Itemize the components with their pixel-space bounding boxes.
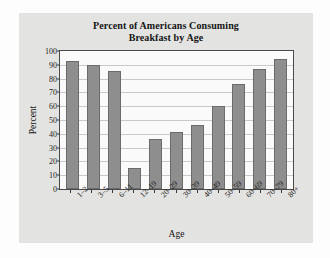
y-axis-tick-mark	[57, 106, 60, 107]
x-axis-tick-mark	[281, 190, 282, 193]
x-axis-tick-mark	[239, 190, 240, 193]
x-axis-tick-label: 80+	[286, 193, 292, 199]
chart-title-line-2: Breakfast by Age	[19, 32, 313, 44]
x-axis-tick-mark	[91, 190, 92, 193]
chart-title: Percent of Americans Consuming Breakfast…	[19, 20, 313, 44]
x-axis-ticks: 1–23–56–1112–1920–2930–3940–4950–5960–69…	[59, 190, 294, 230]
bar	[232, 84, 245, 189]
x-axis-tick-label: 40–49	[202, 193, 208, 199]
y-axis-tick-mark	[57, 147, 60, 148]
x-axis-tick-mark	[260, 190, 261, 193]
x-axis-tick-label: 30–39	[181, 193, 187, 199]
y-axis-label: Percent	[28, 50, 42, 190]
x-axis-tick-label: 20–29	[159, 193, 165, 199]
y-axis-tick-mark	[57, 64, 60, 65]
x-axis-tick-label: 3–5	[96, 193, 102, 199]
y-axis-tick-label: 70	[49, 88, 57, 97]
bar	[253, 69, 266, 189]
x-axis-tick-mark	[154, 190, 155, 193]
x-axis-tick-mark	[218, 190, 219, 193]
bar	[87, 65, 100, 189]
bar	[212, 106, 225, 189]
x-axis-tick-mark	[176, 190, 177, 193]
figure: Percent of Americans Consuming Breakfast…	[0, 0, 330, 258]
y-axis-tick-label: 50	[49, 116, 57, 125]
y-axis-tick-mark	[57, 51, 60, 52]
y-axis-tick-mark	[57, 92, 60, 93]
y-axis-tick-mark	[57, 120, 60, 121]
y-axis-tick-mark	[57, 175, 60, 176]
y-axis-tick-label: 40	[49, 129, 57, 138]
plot-area: 0102030405060708090100	[59, 50, 294, 190]
bar	[108, 71, 121, 189]
x-axis-tick-mark	[133, 190, 134, 193]
y-axis-tick-label: 60	[49, 102, 57, 111]
y-axis-tick-mark	[57, 161, 60, 162]
bar	[274, 59, 287, 189]
y-axis-tick-mark	[57, 78, 60, 79]
bar-series	[60, 51, 293, 189]
x-axis-tick-label: 50–59	[223, 193, 229, 199]
x-axis-tick-label: 70–79	[265, 193, 271, 199]
x-axis-tick-label: 6–11	[117, 193, 123, 199]
y-axis-tick-label: 100	[45, 47, 57, 56]
y-axis-tick-label: 80	[49, 74, 57, 83]
x-axis-tick-mark	[70, 190, 71, 193]
chart-panel: Percent of Americans Consuming Breakfast…	[19, 13, 313, 243]
x-axis-tick-label: 1–2	[75, 193, 81, 199]
y-axis-tick-label: 90	[49, 60, 57, 69]
x-axis-tick-label: 12–19	[138, 193, 144, 199]
x-axis-tick-mark	[197, 190, 198, 193]
x-axis-tick-mark	[112, 190, 113, 193]
y-axis-tick-label: 30	[49, 143, 57, 152]
y-axis-tick-label: 10	[49, 171, 57, 180]
bar	[66, 61, 79, 189]
y-axis-tick-mark	[57, 133, 60, 134]
chart-title-line-1: Percent of Americans Consuming	[19, 20, 313, 32]
x-axis-tick-label: 60–69	[244, 193, 250, 199]
y-axis-tick-label: 20	[49, 157, 57, 166]
x-axis-label: Age	[59, 229, 294, 239]
